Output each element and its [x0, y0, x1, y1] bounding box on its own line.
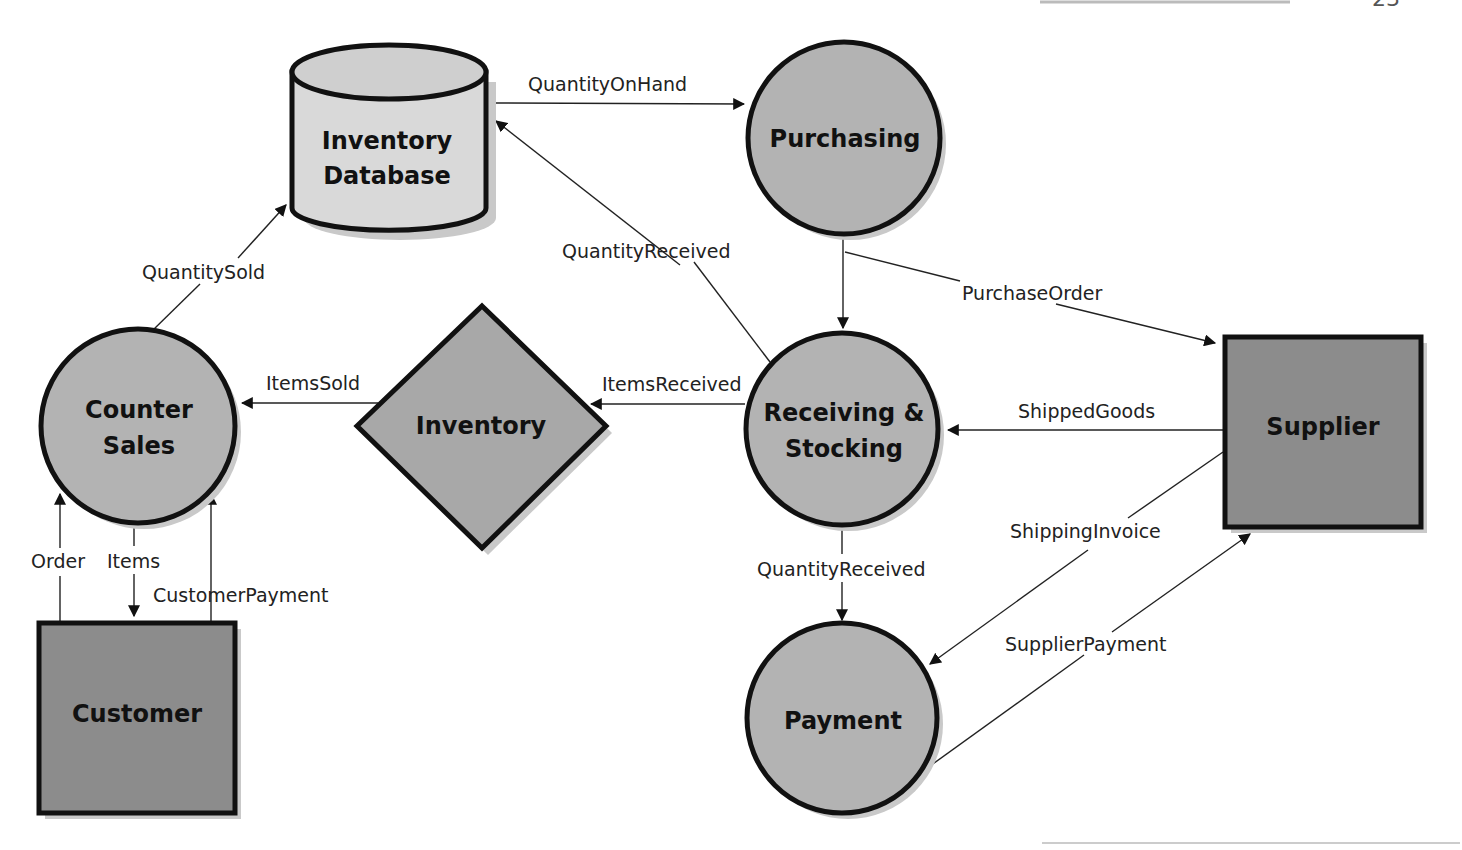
flow-items-sold: ItemsSold: [242, 372, 378, 403]
node-purchasing[interactable]: Purchasing: [748, 42, 946, 240]
node-label: Supplier: [1266, 413, 1379, 441]
node-label: Payment: [784, 707, 902, 735]
node-label: Receiving &: [764, 399, 925, 427]
flow-label: ShippingInvoice: [1010, 520, 1161, 542]
flow-order: Order: [31, 494, 85, 622]
flow-label: ShippedGoods: [1018, 400, 1155, 422]
node-counter-sales[interactable]: Counter Sales: [41, 329, 241, 529]
flow-quantity-received-payment: QuantityReceived: [757, 524, 926, 620]
flow-label: QuantityReceived: [562, 240, 731, 262]
node-label: Counter: [85, 396, 193, 424]
flow-quantity-on-hand: QuantityOnHand: [496, 73, 744, 104]
flow-items-received: ItemsReceived: [591, 373, 745, 404]
node-inventory-database[interactable]: Inventory Database: [292, 45, 496, 240]
node-label: Stocking: [785, 435, 903, 463]
data-flow-diagram: 23 QuantityOnHand QuantityReceived Quant…: [0, 0, 1462, 850]
flow-label: QuantitySold: [142, 261, 265, 283]
flow-supplier-payment: SupplierPayment: [930, 534, 1250, 766]
flow-label: CustomerPayment: [153, 584, 328, 606]
page-header-fragment: 23: [1040, 0, 1400, 11]
node-payment[interactable]: Payment: [747, 623, 943, 819]
flow-label: Items: [107, 550, 160, 572]
node-supplier[interactable]: Supplier: [1225, 337, 1427, 533]
node-label: Purchasing: [770, 125, 921, 153]
node-customer[interactable]: Customer: [39, 623, 241, 819]
flow-label: QuantityOnHand: [528, 73, 687, 95]
flow-shipped-goods: ShippedGoods: [948, 400, 1224, 430]
flow-label: Order: [31, 550, 85, 572]
flow-quantity-received-db: QuantityReceived: [496, 121, 770, 362]
node-label: Inventory: [322, 127, 453, 155]
node-label: Database: [323, 162, 451, 190]
node-label: Customer: [72, 700, 202, 728]
flow-label: SupplierPayment: [1005, 633, 1166, 655]
page-number: 23: [1372, 0, 1400, 11]
node-label: Sales: [103, 432, 175, 460]
node-receiving-stocking[interactable]: Receiving & Stocking: [746, 333, 944, 531]
flow-label: QuantityReceived: [757, 558, 926, 580]
flow-quantity-sold: QuantitySold: [142, 205, 286, 330]
flow-label: ItemsReceived: [602, 373, 742, 395]
flow-label: ItemsSold: [266, 372, 360, 394]
node-inventory[interactable]: Inventory: [357, 306, 612, 555]
flow-label: PurchaseOrder: [962, 282, 1102, 304]
node-label: Inventory: [416, 412, 547, 440]
flow-purchase-order: PurchaseOrder: [845, 252, 1215, 343]
